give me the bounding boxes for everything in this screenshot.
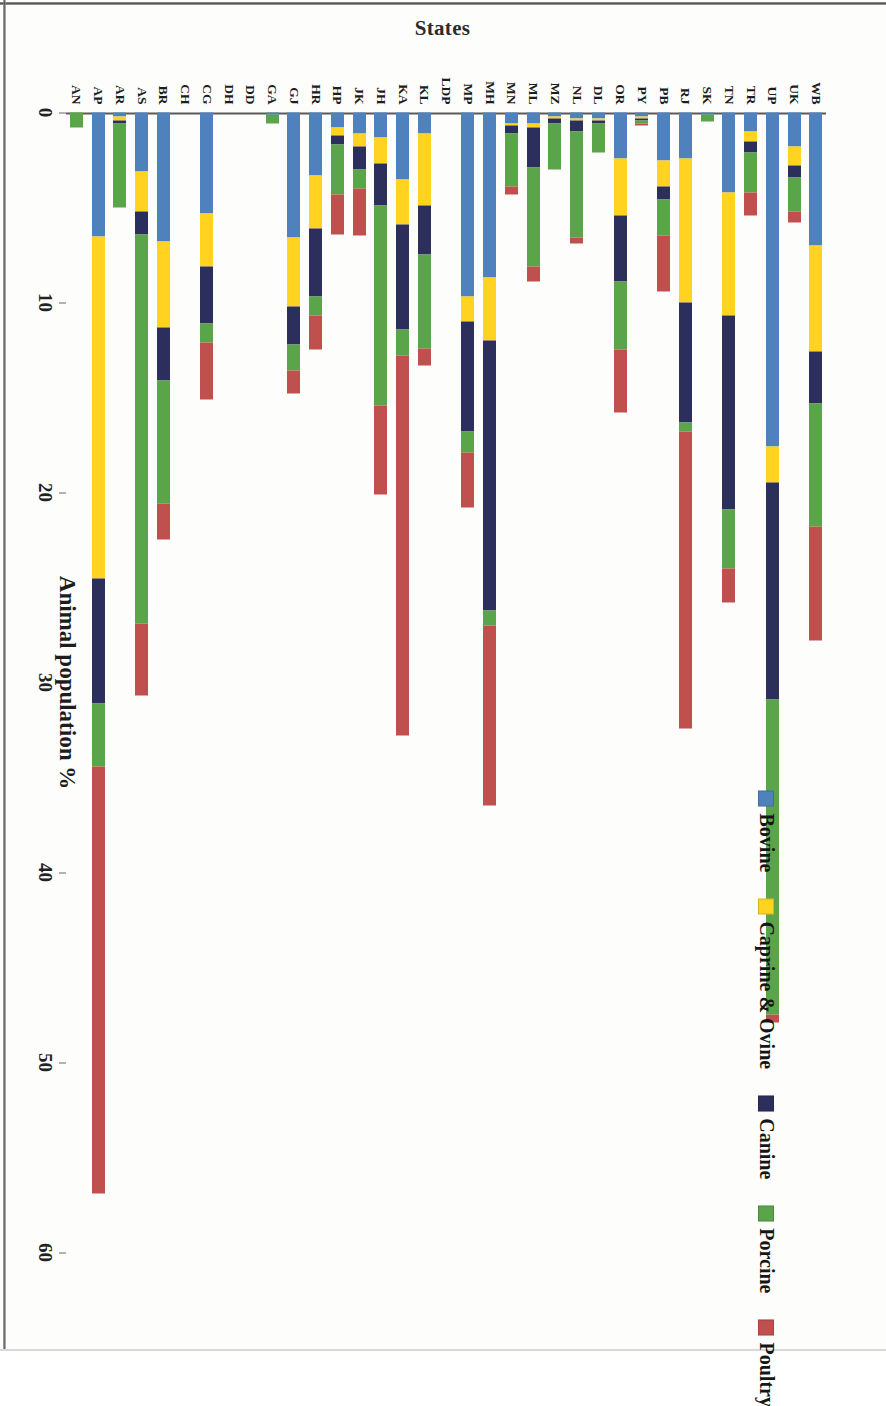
bar-segment-canine[interactable] <box>92 578 105 703</box>
bar-segment-bovine[interactable] <box>353 112 366 133</box>
bar-segment-porcine[interactable] <box>266 114 279 124</box>
bar-segment-caprine-ovine[interactable] <box>157 241 170 327</box>
bar-segment-porcine[interactable] <box>810 403 823 527</box>
bar-segment-canine[interactable] <box>114 120 127 124</box>
bar-segment-canine[interactable] <box>288 306 301 344</box>
stacked-bar[interactable] <box>549 112 562 169</box>
bar-segment-canine[interactable] <box>353 146 366 169</box>
stacked-bar[interactable] <box>288 112 301 393</box>
stacked-bar[interactable] <box>309 112 322 349</box>
bar-segment-bovine[interactable] <box>744 112 757 131</box>
bar-segment-porcine[interactable] <box>723 509 736 568</box>
bar-segment-caprine-ovine[interactable] <box>810 245 823 351</box>
bar-segment-caprine-ovine[interactable] <box>201 213 214 266</box>
bar-segment-porcine[interactable] <box>505 133 518 186</box>
bar-segment-caprine-ovine[interactable] <box>309 175 322 228</box>
bar-segment-bovine[interactable] <box>614 112 627 158</box>
stacked-bar[interactable] <box>788 112 801 222</box>
bar-segment-caprine-ovine[interactable] <box>788 146 801 165</box>
bar-segment-poultry[interactable] <box>396 355 409 735</box>
bar-row[interactable] <box>154 112 174 1252</box>
bar-segment-porcine[interactable] <box>396 329 409 356</box>
bar-segment-porcine[interactable] <box>614 281 627 349</box>
bar-row[interactable] <box>219 112 239 1252</box>
bar-segment-bovine[interactable] <box>723 112 736 192</box>
bar-segment-canine[interactable] <box>396 224 409 329</box>
bar-segment-caprine-ovine[interactable] <box>657 160 670 187</box>
bar-segment-bovine[interactable] <box>288 112 301 237</box>
legend-item[interactable]: Poultry <box>755 1319 778 1406</box>
bar-row[interactable] <box>458 112 478 1252</box>
bar-segment-porcine[interactable] <box>201 323 214 342</box>
legend-item[interactable]: Porcine <box>755 1205 778 1293</box>
bar-segment-caprine-ovine[interactable] <box>353 133 366 146</box>
bar-segment-poultry[interactable] <box>810 526 823 640</box>
bar-segment-caprine-ovine[interactable] <box>331 127 344 135</box>
stacked-bar[interactable] <box>462 112 475 507</box>
bar-segment-canine[interactable] <box>462 321 475 431</box>
bar-segment-caprine-ovine[interactable] <box>766 446 779 482</box>
bar-segment-canine[interactable] <box>766 482 779 699</box>
bar-segment-caprine-ovine[interactable] <box>375 137 388 164</box>
bar-row[interactable] <box>480 112 500 1252</box>
stacked-bar[interactable] <box>636 112 649 125</box>
bar-segment-poultry[interactable] <box>744 192 757 215</box>
bar-row[interactable] <box>284 112 304 1252</box>
bar-row[interactable] <box>371 112 391 1252</box>
stacked-bar[interactable] <box>483 112 496 805</box>
bar-segment-bovine[interactable] <box>657 112 670 160</box>
bar-segment-canine[interactable] <box>309 228 322 296</box>
bar-row[interactable] <box>545 112 565 1252</box>
bar-segment-bovine[interactable] <box>679 112 692 158</box>
bar-segment-canine[interactable] <box>788 165 801 176</box>
bar-segment-canine[interactable] <box>418 205 431 254</box>
bar-segment-bovine[interactable] <box>766 112 779 446</box>
bar-segment-bovine[interactable] <box>462 112 475 296</box>
bar-segment-canine[interactable] <box>744 141 757 152</box>
bar-row[interactable] <box>523 112 543 1252</box>
bar-segment-bovine[interactable] <box>549 112 562 116</box>
bar-segment-porcine[interactable] <box>462 431 475 452</box>
bar-row[interactable] <box>393 112 413 1252</box>
bar-segment-caprine-ovine[interactable] <box>114 116 127 120</box>
bar-segment-bovine[interactable] <box>331 112 344 127</box>
stacked-bar[interactable] <box>418 112 431 365</box>
bar-segment-canine[interactable] <box>810 351 823 402</box>
bar-row[interactable] <box>784 112 804 1252</box>
bar-segment-poultry[interactable] <box>657 235 670 290</box>
bar-segment-poultry[interactable] <box>614 349 627 412</box>
bar-segment-porcine[interactable] <box>657 199 670 235</box>
bar-segment-poultry[interactable] <box>527 266 540 281</box>
bar-segment-porcine[interactable] <box>592 123 605 152</box>
bar-row[interactable] <box>610 112 630 1252</box>
bar-segment-porcine[interactable] <box>744 152 757 192</box>
bar-segment-canine[interactable] <box>375 163 388 205</box>
bar-segment-canine[interactable] <box>483 340 496 610</box>
bar-segment-caprine-ovine[interactable] <box>614 158 627 215</box>
bar-segment-porcine[interactable] <box>331 144 344 193</box>
bar-row[interactable] <box>632 112 652 1252</box>
bar-row[interactable] <box>306 112 326 1252</box>
bar-segment-bovine[interactable] <box>527 112 540 123</box>
bar-segment-canine[interactable] <box>527 127 540 167</box>
bar-segment-poultry[interactable] <box>723 568 736 602</box>
bar-segment-bovine[interactable] <box>483 112 496 277</box>
legend-item[interactable]: Canine <box>755 1095 778 1179</box>
bar-segment-porcine[interactable] <box>549 123 562 169</box>
bar-row[interactable] <box>197 112 217 1252</box>
bar-segment-poultry[interactable] <box>309 315 322 349</box>
bar-segment-poultry[interactable] <box>483 625 496 806</box>
legend-item[interactable]: Caprine & Ovine <box>755 898 778 1069</box>
stacked-bar[interactable] <box>92 112 105 1193</box>
bar-row[interactable] <box>654 112 674 1252</box>
bar-segment-porcine[interactable] <box>114 123 127 207</box>
bar-segment-bovine[interactable] <box>92 112 105 236</box>
bar-row[interactable] <box>241 112 261 1252</box>
bar-segment-bovine[interactable] <box>592 112 605 118</box>
bar-segment-bovine[interactable] <box>114 112 127 116</box>
bar-segment-bovine[interactable] <box>375 112 388 137</box>
bar-segment-poultry[interactable] <box>201 342 214 399</box>
bar-segment-poultry[interactable] <box>288 370 301 393</box>
bar-segment-caprine-ovine[interactable] <box>396 179 409 225</box>
stacked-bar[interactable] <box>723 112 736 602</box>
